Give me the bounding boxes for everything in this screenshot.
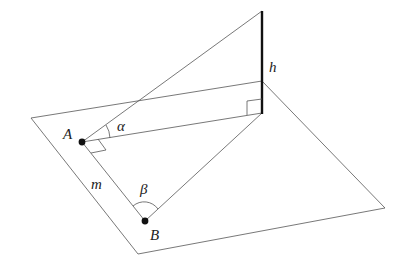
- right-angle-marker-a: [91, 139, 106, 153]
- label-m: m: [91, 176, 102, 192]
- angle-alpha-arc: [106, 125, 110, 138]
- angle-beta-arc: [133, 202, 158, 209]
- point-a: [79, 139, 86, 146]
- right-angle-marker-foot: [247, 99, 262, 115]
- label-a: A: [62, 126, 73, 142]
- geometry-diagram: A B h m α β: [0, 0, 405, 265]
- label-beta: β: [139, 181, 148, 197]
- label-b: B: [150, 227, 159, 243]
- segment-a-top: [82, 11, 262, 142]
- label-h: h: [269, 59, 277, 75]
- point-b: [142, 218, 149, 225]
- label-alpha: α: [117, 118, 126, 134]
- ground-plane: [31, 81, 385, 254]
